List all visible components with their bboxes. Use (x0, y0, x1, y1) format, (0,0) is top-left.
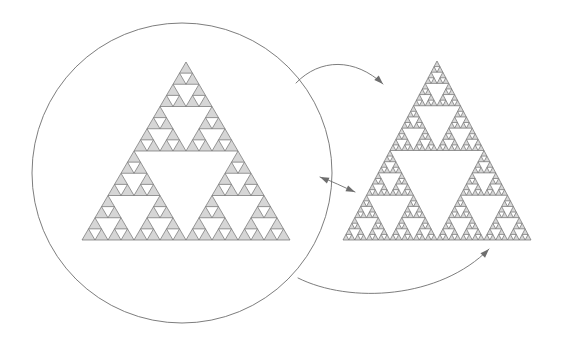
sierpinski-self-similarity-figure (0, 0, 564, 357)
background-rect (0, 0, 564, 357)
figure-canvas (0, 0, 564, 357)
